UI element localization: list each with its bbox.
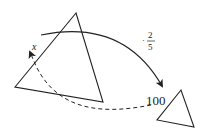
small-triangle-label: 100 bbox=[146, 93, 166, 108]
scale-numerator: 2 bbox=[148, 30, 153, 40]
return-label: x bbox=[31, 41, 37, 52]
diagram-canvas: · 2 5 x 100 bbox=[0, 0, 202, 134]
large-triangle bbox=[15, 13, 103, 102]
scale-prefix: · bbox=[142, 35, 145, 45]
scale-denominator: 5 bbox=[148, 42, 153, 52]
